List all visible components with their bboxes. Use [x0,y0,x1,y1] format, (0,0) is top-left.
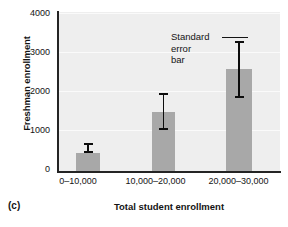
error-bar-cap-bottom [84,151,93,153]
y-tick-label-1000: 1000 [0,126,50,135]
x-axis-title: Total student enrollment [58,201,280,212]
error-bar-cap-top [84,143,93,145]
x-tick-label-10000-20000: 10,000–20,000 [113,176,198,186]
annotation-line-2: error [171,43,210,55]
panel-label: (c) [8,200,20,211]
x-tick-label-0-10000: 0–10,000 [38,176,118,186]
x-axis-line [57,171,281,173]
gridline-4000 [58,13,280,14]
error-bar-cap-bottom [235,96,244,98]
error-bar-0-10000 [76,143,100,153]
annotation-line-3: bar [171,54,210,66]
chart-figure: Freshman enrollment 4000 3000 2000 1000 … [0,0,288,227]
error-bar-cap-top [235,41,244,43]
y-tick-label-2000: 2000 [0,87,50,96]
error-bar-10000-20000 [152,93,175,130]
y-tick-label-0: 0 [0,165,50,174]
y-tick-label-4000: 4000 [0,9,50,18]
error-bar-line [163,93,165,130]
standard-error-bar-annotation: Standard error bar [171,31,210,66]
bar-0-10000 [76,153,100,172]
error-bar-cap-top [159,93,168,95]
error-bar-cap-bottom [159,128,168,130]
y-tick-label-3000: 3000 [0,48,50,57]
y-axis-line [57,11,59,173]
error-bar-20000-30000 [226,41,252,98]
annotation-line-1: Standard [171,31,210,43]
annotation-leader-line [222,37,248,38]
plot-area [58,12,280,172]
error-bar-line [238,41,240,98]
x-tick-label-20000-30000: 20,000–30,000 [196,176,281,186]
